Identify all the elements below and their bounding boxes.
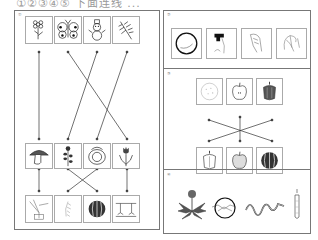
tulip-card[interactable]: [112, 143, 140, 169]
mushroom-icon: [26, 144, 52, 168]
pine-branch-card[interactable]: [112, 16, 140, 44]
bell-pepper-icon: [257, 79, 282, 104]
panel-number: ④: [167, 172, 171, 177]
grain-stalk-card[interactable]: [54, 195, 82, 223]
snake-item[interactable]: [244, 196, 286, 220]
circled-insect-icon: [210, 195, 240, 221]
butterfly-card[interactable]: [54, 16, 82, 44]
apple-top-card[interactable]: [226, 78, 253, 105]
dandelion-icon: [176, 187, 208, 223]
sprouts-card[interactable]: [112, 195, 140, 223]
melon-slice-icon: [197, 79, 222, 104]
apple-icon: [227, 79, 252, 104]
carrot-item[interactable]: [292, 187, 302, 221]
flower-card[interactable]: [25, 16, 53, 44]
instruction-header: ①②③④⑤ 下面连线 ...: [16, 0, 141, 10]
butterfly-icon: [55, 17, 81, 43]
snake-icon: [244, 196, 286, 220]
left-exercise-panel: ①: [14, 10, 160, 230]
flower-icon: [26, 17, 52, 43]
cabbage-icon: [84, 144, 110, 168]
wheat-ears-card[interactable]: [25, 195, 53, 223]
carrot-icon: [292, 187, 302, 221]
tulip-icon: [113, 144, 139, 168]
sunflower-stem-icon: [55, 144, 81, 168]
melon-slice-card[interactable]: [196, 78, 223, 105]
grain-stalk-icon: [55, 196, 81, 222]
snowman-icon: [84, 17, 110, 43]
wheat-ears-icon: [26, 196, 52, 222]
snowman-card[interactable]: [83, 16, 111, 44]
mushroom-card[interactable]: [25, 143, 53, 169]
sprouts-icon: [113, 196, 139, 222]
watermelon-icon: [84, 196, 110, 222]
cabbage-card[interactable]: [83, 143, 111, 169]
sunflower-stem-card[interactable]: [54, 143, 82, 169]
divider: [164, 169, 310, 170]
dandelion-item[interactable]: [176, 187, 208, 223]
circled-insect-item[interactable]: [210, 195, 240, 221]
pine-branch-icon: [113, 17, 139, 43]
right-exercise-panel: ② ③ ④: [163, 10, 311, 234]
bell-pepper-top-card[interactable]: [256, 78, 283, 105]
watermelon-card[interactable]: [83, 195, 111, 223]
